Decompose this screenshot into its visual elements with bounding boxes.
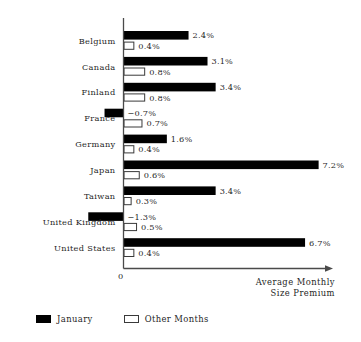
value-label-january: 3.4% xyxy=(220,187,242,195)
bar-january xyxy=(124,135,167,144)
category-label: France xyxy=(84,114,115,122)
value-label-january: −0.7% xyxy=(128,109,157,117)
category-label: Germany xyxy=(75,140,115,148)
bar-january xyxy=(124,186,216,195)
bar-other-months xyxy=(124,146,134,153)
legend-label-other-months: Other Months xyxy=(145,314,209,324)
x-axis-title-line2: Size Premium xyxy=(256,288,335,299)
value-label-january: 3.1% xyxy=(212,57,234,65)
bar-january xyxy=(124,161,319,170)
value-label-other-months: 0.8% xyxy=(149,68,171,76)
value-label-january: 3.4% xyxy=(220,83,242,91)
category-label: United Kingdom xyxy=(43,218,116,226)
hollow-square-icon xyxy=(124,315,139,323)
bar-other-months xyxy=(124,120,142,127)
bar-other-months xyxy=(124,223,137,230)
bar-january xyxy=(124,83,216,92)
zero-tick-label: 0 xyxy=(118,272,123,280)
value-label-january: 2.4% xyxy=(193,31,215,39)
value-label-other-months: 0.5% xyxy=(141,223,163,231)
bar-chart: BelgiumCanadaFinlandFranceGermanyJapanTa… xyxy=(0,0,361,342)
legend-item-other-months[interactable]: Other Months xyxy=(124,314,209,324)
category-label: Taiwan xyxy=(84,192,116,200)
legend-label-january: January xyxy=(57,314,93,324)
bar-other-months xyxy=(124,172,139,179)
category-label: Japan xyxy=(90,166,115,174)
bar-other-months xyxy=(124,94,145,101)
value-label-other-months: 0.4% xyxy=(138,145,160,153)
legend-item-january[interactable]: January xyxy=(36,314,93,324)
value-label-january: −1.3% xyxy=(128,213,157,221)
value-label-other-months: 0.4% xyxy=(138,249,160,257)
bar-january xyxy=(124,238,306,247)
x-axis-title: Average Monthly Size Premium xyxy=(256,277,335,300)
value-label-january: 1.6% xyxy=(171,135,193,143)
chart-legend: January Other Months xyxy=(36,314,209,324)
filled-square-icon xyxy=(36,315,51,323)
x-axis-arrow-icon xyxy=(325,265,333,272)
category-label: Canada xyxy=(82,63,116,71)
value-label-other-months: 0.4% xyxy=(138,42,160,50)
bar-january xyxy=(124,31,189,40)
category-label: Belgium xyxy=(79,37,116,45)
category-label: United States xyxy=(54,244,115,252)
x-axis-title-line1: Average Monthly xyxy=(256,277,335,288)
bar-other-months xyxy=(124,42,134,49)
value-label-other-months: 0.7% xyxy=(146,119,168,127)
value-label-january: 6.7% xyxy=(309,239,331,247)
value-label-other-months: 0.8% xyxy=(149,94,171,102)
value-label-other-months: 0.6% xyxy=(144,171,166,179)
bar-other-months xyxy=(124,198,131,205)
bar-other-months xyxy=(124,249,134,256)
bar-january xyxy=(124,57,208,66)
value-label-other-months: 0.3% xyxy=(136,197,158,205)
category-label: Finland xyxy=(81,88,115,96)
bar-other-months xyxy=(124,68,145,75)
value-label-january: 7.2% xyxy=(323,161,345,169)
bars-layer xyxy=(88,31,318,257)
